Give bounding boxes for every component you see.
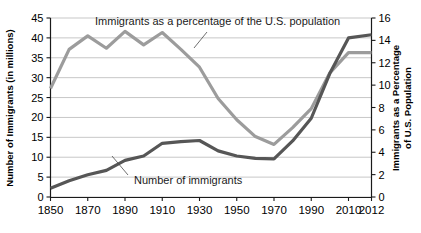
right-tick-label: 12 xyxy=(379,57,391,69)
left-tick-label: 5 xyxy=(37,171,43,183)
right-axis-title: Immigrants as a Percentage of U.S. Popul… xyxy=(390,45,413,171)
right-axis-title-line1: Immigrants as a Percentage xyxy=(390,45,401,171)
left-tick-label: 35 xyxy=(31,52,43,64)
left-tick-label: 45 xyxy=(31,12,43,24)
left-tick-label: 0 xyxy=(37,191,43,203)
right-axis: 0246810121416 xyxy=(372,12,391,203)
annotation-leaders xyxy=(112,32,207,175)
right-tick-label: 6 xyxy=(379,124,385,136)
x-tick-label: 1990 xyxy=(298,204,324,216)
data-series xyxy=(51,31,372,188)
left-tick-label: 30 xyxy=(31,72,43,84)
x-tick-label: 1870 xyxy=(75,204,101,216)
x-tick-label: 1850 xyxy=(38,204,64,216)
percentage-leader-line xyxy=(194,32,207,48)
left-tick-label: 10 xyxy=(31,151,43,163)
left-tick-label: 20 xyxy=(31,111,43,123)
right-axis-title-line2: of U.S. Population xyxy=(402,67,413,149)
chart-canvas: 051015202530354045 0246810121416 1850187… xyxy=(0,0,421,233)
left-tick-label: 40 xyxy=(31,32,43,44)
right-tick-label: 10 xyxy=(379,79,391,91)
x-tick-label: 1970 xyxy=(261,204,287,216)
number-annotation-label: Number of immigrants xyxy=(134,174,243,186)
right-tick-label: 4 xyxy=(379,146,385,158)
left-tick-label: 25 xyxy=(31,92,43,104)
immigration-chart: 051015202530354045 0246810121416 1850187… xyxy=(0,0,421,233)
x-tick-label: 2012 xyxy=(359,204,385,216)
x-tick-label: 1890 xyxy=(112,204,138,216)
percentage-annotation-label: Immigrants as a percentage of the U.S. p… xyxy=(95,15,340,27)
right-tick-label: 0 xyxy=(379,191,385,203)
right-tick-label: 8 xyxy=(379,102,385,114)
x-axis-ticks: 1850187018901910193019501970199020102012 xyxy=(38,197,385,216)
left-axis-title: Number of Immigrants (in millions) xyxy=(4,29,15,186)
x-tick-label: 1910 xyxy=(149,204,175,216)
x-tick-label: 2010 xyxy=(336,204,362,216)
left-axis-ticks: 051015202530354045 xyxy=(31,12,50,203)
left-tick-label: 15 xyxy=(31,131,43,143)
x-tick-label: 1950 xyxy=(224,204,250,216)
left-axis: 051015202530354045 xyxy=(31,12,50,203)
right-axis-ticks: 0246810121416 xyxy=(372,12,391,203)
x-axis: 1850187018901910193019501970199020102012 xyxy=(38,197,385,216)
x-tick-label: 1930 xyxy=(187,204,213,216)
right-tick-label: 2 xyxy=(379,169,385,181)
right-tick-label: 14 xyxy=(379,34,391,46)
right-tick-label: 16 xyxy=(379,12,391,24)
